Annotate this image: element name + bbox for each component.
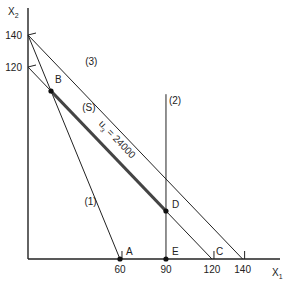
x-tick-label-140: 140 [234,264,251,275]
x-tick-label-60: 60 [114,264,126,275]
point-B-label: B [55,74,62,85]
axes: X2 X1 [8,6,283,280]
objective-label: u3 = 24000 [95,118,138,162]
point-A-dot [117,256,122,261]
point-A-label: A [126,246,133,257]
constraint-3-line [28,35,243,259]
point-C-label: C [216,246,223,257]
y-tick-label-120: 120 [5,62,22,73]
objective-segment [51,91,166,211]
points: ABCDE [48,74,223,262]
point-D-label: D [172,199,179,210]
x-tick-label-120: 120 [204,264,221,275]
constraint-lines: (1)(2)(3)(S) [28,35,243,259]
constraint-1-label: (1) [84,196,96,207]
y-tick-label-140: 140 [5,30,22,41]
point-D-dot [163,208,168,213]
y-axis-label: X2 [8,6,19,19]
constraint-3-label: (3) [85,56,97,67]
constraint-s-label: (S) [82,102,95,113]
constraint-2-label: (2) [169,95,181,106]
point-E-label: E [172,246,179,257]
x-tick-label-90: 90 [160,264,172,275]
y-tick-mark [28,65,36,67]
x-axis-label: X1 [272,267,283,280]
lp-diagram: X2 X1 6090120140140120 (1)(2)(3)(S) u3 =… [0,0,291,282]
point-B-dot [48,88,53,93]
point-E-dot [163,256,168,261]
objective: u3 = 24000 [51,91,166,211]
y-tick-mark [28,33,36,35]
